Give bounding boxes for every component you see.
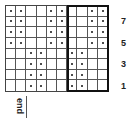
purl-stitch-cell: [26, 49, 36, 60]
knit-stitch-cell: [47, 80, 57, 91]
purl-stitch-cell: [47, 6, 57, 17]
purl-stitch-cell: [6, 27, 16, 38]
purl-stitch-cell: [26, 70, 36, 81]
knit-stitch-cell: [16, 80, 26, 91]
purl-stitch-cell: [16, 6, 26, 17]
purl-stitch-cell: [26, 59, 36, 70]
purl-stitch-cell: [67, 80, 77, 91]
knit-stitch-cell: [77, 38, 87, 49]
knit-stitch-cell: [37, 6, 47, 17]
knit-stitch-cell: [67, 6, 77, 17]
purl-stitch-cell: [98, 38, 108, 49]
knit-stitch-cell: [88, 49, 98, 60]
knit-stitch-cell: [6, 59, 16, 70]
purl-stitch-cell: [57, 6, 67, 17]
end-label: end: [15, 98, 25, 114]
purl-stitch-cell: [47, 38, 57, 49]
knit-stitch-cell: [6, 80, 16, 91]
purl-stitch-cell: [67, 49, 77, 60]
purl-stitch-cell: [67, 70, 77, 81]
knit-stitch-cell: [77, 17, 87, 28]
knit-stitch-cell: [88, 80, 98, 91]
knit-stitch-cell: [37, 17, 47, 28]
purl-stitch-cell: [16, 38, 26, 49]
knit-stitch-cell: [37, 27, 47, 38]
purl-stitch-cell: [6, 17, 16, 28]
knit-stitch-cell: [57, 49, 67, 60]
purl-stitch-cell: [26, 80, 36, 91]
knitting-chart-grid: [5, 5, 109, 92]
knit-stitch-cell: [88, 70, 98, 81]
knit-stitch-cell: [77, 6, 87, 17]
purl-stitch-cell: [37, 80, 47, 91]
purl-stitch-cell: [77, 80, 87, 91]
knit-stitch-cell: [47, 49, 57, 60]
purl-stitch-cell: [47, 27, 57, 38]
row-number: 3: [121, 59, 126, 69]
purl-stitch-cell: [37, 49, 47, 60]
knit-stitch-cell: [88, 59, 98, 70]
purl-stitch-cell: [77, 70, 87, 81]
knit-stitch-cell: [16, 70, 26, 81]
row-number: 1: [121, 81, 126, 91]
purl-stitch-cell: [16, 17, 26, 28]
purl-stitch-cell: [88, 27, 98, 38]
purl-stitch-cell: [6, 6, 16, 17]
knit-stitch-cell: [6, 70, 16, 81]
purl-stitch-cell: [47, 17, 57, 28]
purl-stitch-cell: [88, 17, 98, 28]
knit-stitch-cell: [26, 27, 36, 38]
knit-stitch-cell: [47, 59, 57, 70]
purl-stitch-cell: [88, 6, 98, 17]
purl-stitch-cell: [6, 38, 16, 49]
end-marker-line: [26, 96, 27, 118]
knit-stitch-cell: [77, 27, 87, 38]
knit-stitch-cell: [98, 80, 108, 91]
knit-stitch-cell: [26, 17, 36, 28]
knit-stitch-cell: [67, 17, 77, 28]
purl-stitch-cell: [37, 59, 47, 70]
knit-stitch-cell: [16, 49, 26, 60]
knit-stitch-cell: [6, 49, 16, 60]
purl-stitch-cell: [57, 38, 67, 49]
purl-stitch-cell: [77, 59, 87, 70]
purl-stitch-cell: [57, 17, 67, 28]
row-number: 5: [121, 38, 126, 48]
knit-stitch-cell: [47, 70, 57, 81]
purl-stitch-cell: [67, 59, 77, 70]
purl-stitch-cell: [98, 17, 108, 28]
purl-stitch-cell: [37, 70, 47, 81]
purl-stitch-cell: [77, 49, 87, 60]
knit-stitch-cell: [37, 38, 47, 49]
knit-stitch-cell: [57, 70, 67, 81]
purl-stitch-cell: [98, 6, 108, 17]
purl-stitch-cell: [57, 27, 67, 38]
knit-stitch-cell: [67, 38, 77, 49]
purl-stitch-cell: [98, 27, 108, 38]
knit-stitch-cell: [98, 49, 108, 60]
knit-stitch-cell: [67, 27, 77, 38]
purl-stitch-cell: [88, 38, 98, 49]
knit-stitch-cell: [26, 6, 36, 17]
knit-stitch-cell: [26, 38, 36, 49]
row-number: 7: [121, 16, 126, 26]
knit-stitch-cell: [57, 59, 67, 70]
knit-stitch-cell: [57, 80, 67, 91]
purl-stitch-cell: [16, 27, 26, 38]
knit-stitch-cell: [98, 59, 108, 70]
knit-stitch-cell: [16, 59, 26, 70]
knit-stitch-cell: [98, 70, 108, 81]
